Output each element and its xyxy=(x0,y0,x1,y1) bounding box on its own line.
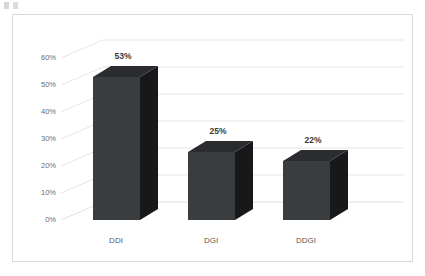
bar-front-ddi xyxy=(93,77,140,220)
bar-front-dgi xyxy=(188,152,235,220)
chart-plot-frame: 60% 50% 40% 30% 20% 10% 0% 53% xyxy=(12,14,413,262)
x-axis-categories: DDI DGI DDGI xyxy=(109,236,316,245)
y-tick-10: 10% xyxy=(41,188,56,197)
y-tick-20: 20% xyxy=(41,161,56,170)
y-tick-30: 30% xyxy=(41,134,56,143)
bar-front-ddgi xyxy=(283,161,330,220)
gridline-60 xyxy=(61,40,404,58)
y-tick-0: 0% xyxy=(45,215,56,224)
bar-value-label-dgi: 25% xyxy=(209,126,226,136)
y-tick-40: 40% xyxy=(41,107,56,116)
bar-value-label-ddgi: 22% xyxy=(304,135,321,145)
scan-artifact xyxy=(4,2,20,9)
chart-figure: 60% 50% 40% 30% 20% 10% 0% 53% xyxy=(0,0,425,276)
bar-group-ddi[interactable]: 53% xyxy=(93,51,158,220)
bar-value-label-ddi: 53% xyxy=(114,51,131,61)
bar-chart-svg: 60% 50% 40% 30% 20% 10% 0% 53% xyxy=(13,15,414,263)
x-category-ddgi: DDGI xyxy=(296,236,316,245)
y-axis-ticks: 60% 50% 40% 30% 20% 10% 0% xyxy=(41,53,56,224)
bar-side-ddi xyxy=(140,66,158,220)
y-tick-50: 50% xyxy=(41,80,56,89)
y-tick-60: 60% xyxy=(41,53,56,62)
bar-group-dgi[interactable]: 25% xyxy=(188,126,253,220)
x-category-dgi: DGI xyxy=(204,236,218,245)
x-category-ddi: DDI xyxy=(109,236,123,245)
bar-side-dgi xyxy=(235,141,253,220)
bar-side-ddgi xyxy=(330,150,348,220)
